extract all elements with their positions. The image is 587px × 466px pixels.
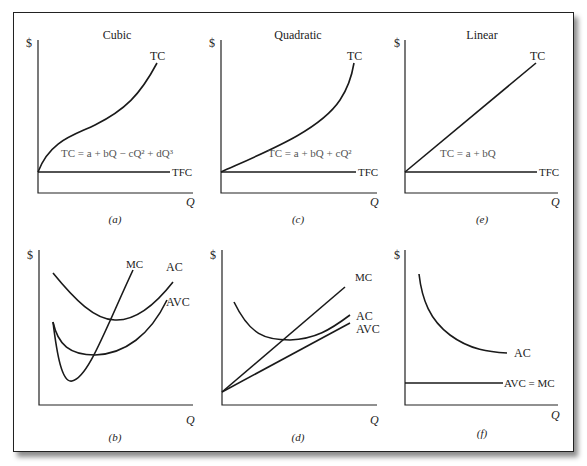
ac-label: AC	[356, 309, 373, 323]
y-axis-label: $	[26, 36, 32, 50]
cost-curves-figure: Cubic $ TC TFC TC = a + bQ − cQ² + dQ³ Q…	[0, 0, 587, 466]
avc-curve	[53, 300, 167, 355]
panel-e: Linear $ TC TFC TC = a + bQ Q (e)	[394, 28, 560, 226]
avc-label: AVC	[166, 295, 190, 309]
avc-line	[222, 323, 350, 392]
x-axis-label: Q	[186, 413, 195, 427]
y-axis-label: $	[210, 248, 216, 262]
tfc-label: TFC	[358, 166, 378, 178]
x-axis-label: Q	[186, 195, 195, 209]
panel-caption: (c)	[292, 213, 305, 226]
panel-title: Cubic	[103, 28, 132, 42]
panel-title: Linear	[466, 28, 497, 42]
x-axis-label: Q	[370, 195, 379, 209]
panel-caption: (a)	[109, 213, 122, 226]
x-axis-label: Q	[370, 413, 379, 427]
x-axis-label: Q	[551, 408, 560, 422]
panel-title: Quadratic	[274, 28, 321, 42]
y-axis-label: $	[394, 36, 400, 50]
axes	[38, 40, 193, 193]
y-axis-label: $	[27, 248, 33, 262]
y-axis-label: $	[394, 248, 400, 262]
tc-label: TC	[530, 49, 545, 63]
tfc-label: TFC	[172, 166, 192, 178]
avc-mc-label: AVC = MC	[504, 377, 555, 389]
ac-label: AC	[514, 346, 531, 360]
y-axis-label: $	[209, 36, 215, 50]
avc-label: AVC	[356, 322, 380, 336]
tc-label: TC	[150, 49, 165, 63]
axes	[222, 250, 377, 405]
mc-label: MC	[355, 271, 372, 283]
panel-caption: (f)	[477, 427, 488, 440]
panel-caption: (e)	[476, 213, 489, 226]
panel-c: Quadratic $ TC TFC TC = a + bQ + cQ² Q (…	[209, 28, 379, 226]
x-axis-label: Q	[551, 195, 560, 209]
panel-b: $ MC AC AVC Q (b)	[27, 248, 195, 444]
panel-caption: (d)	[292, 431, 305, 444]
panel-a: Cubic $ TC TFC TC = a + bQ − cQ² + dQ³ Q…	[26, 28, 195, 226]
mc-label: MC	[126, 258, 143, 270]
tfc-label: TFC	[539, 166, 559, 178]
panel-f: $ AC AVC = MC Q (f)	[394, 248, 560, 440]
equation: TC = a + bQ − cQ² + dQ³	[61, 147, 174, 159]
ac-label: AC	[166, 260, 183, 274]
panel-d: $ MC AC AVC Q (d)	[210, 248, 380, 444]
ac-curve	[234, 302, 350, 340]
ac-curve	[419, 274, 507, 353]
tc-label: TC	[347, 49, 362, 63]
panel-caption: (b)	[109, 431, 122, 444]
equation: TC = a + bQ	[440, 147, 496, 159]
equation: TC = a + bQ + cQ²	[268, 147, 352, 159]
